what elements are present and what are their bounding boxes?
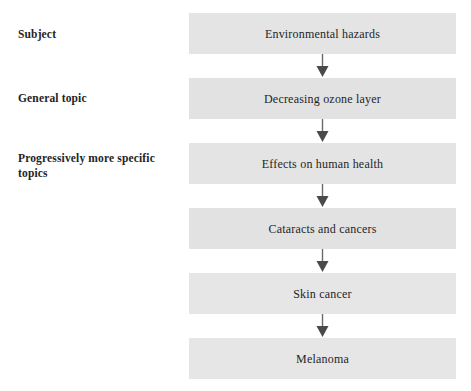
flow-column: Environmental hazards Decreasing ozone l… bbox=[189, 13, 456, 379]
flow-connector-5 bbox=[189, 314, 456, 338]
arrow-down-icon bbox=[189, 119, 456, 143]
stage-label-specific-topics: Progressively more specific topics bbox=[18, 151, 178, 181]
arrow-down-icon bbox=[189, 54, 456, 78]
flow-node-4-label: Cataracts and cancers bbox=[268, 222, 376, 236]
stage-label-subject: Subject bbox=[18, 27, 178, 42]
flow-node-6: Melanoma bbox=[189, 338, 456, 379]
flow-node-1-label: Environmental hazards bbox=[265, 27, 380, 41]
flow-node-4: Cataracts and cancers bbox=[189, 208, 456, 249]
flow-node-5-label: Skin cancer bbox=[293, 287, 352, 301]
flow-diagram: Subject General topic Progressively more… bbox=[0, 0, 471, 391]
flow-node-3-label: Effects on human health bbox=[262, 157, 383, 171]
flow-node-1: Environmental hazards bbox=[189, 13, 456, 54]
arrow-down-icon bbox=[189, 184, 456, 208]
flow-connector-3 bbox=[189, 184, 456, 208]
stage-label-general-topic: General topic bbox=[18, 91, 178, 106]
flow-node-2: Decreasing ozone layer bbox=[189, 78, 456, 119]
flow-node-2-label: Decreasing ozone layer bbox=[264, 92, 381, 106]
flow-node-3: Effects on human health bbox=[189, 143, 456, 184]
flow-connector-2 bbox=[189, 119, 456, 143]
arrow-down-icon bbox=[189, 249, 456, 273]
arrow-down-icon bbox=[189, 314, 456, 338]
flow-node-6-label: Melanoma bbox=[296, 352, 349, 366]
flow-node-5: Skin cancer bbox=[189, 273, 456, 314]
flow-connector-4 bbox=[189, 249, 456, 273]
flow-connector-1 bbox=[189, 54, 456, 78]
